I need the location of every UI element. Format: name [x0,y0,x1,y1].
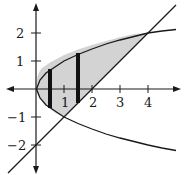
x-tick-label-3: 3 [116,95,124,110]
x-axis-arrow-left-icon [6,86,14,92]
x-tick-label-1: 1 [61,95,69,110]
diagram: 1 2 3 4 2 1 −1 −2 [0,0,186,175]
y-axis-arrow-up-icon [33,3,39,11]
y-tick-label-neg1: −1 [7,110,26,125]
y-tick-label-2: 2 [16,26,24,41]
y-tick-label-neg2: −2 [7,138,26,153]
y-tick-label-1: 1 [16,54,24,69]
x-tick-label-2: 2 [89,95,97,110]
x-tick-label-4: 4 [144,95,152,110]
x-axis-arrow-right-icon [173,86,181,92]
y-axis-arrow-down-icon [33,166,39,174]
